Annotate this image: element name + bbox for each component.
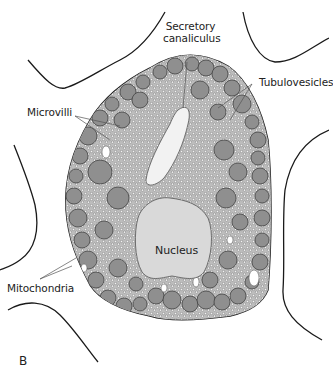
nucleus xyxy=(135,198,211,279)
label-microvilli: Microvilli xyxy=(27,106,72,118)
label-tubulovesicles: Tubulovesicles xyxy=(259,76,333,88)
label-secretory-canaliculus: Secretory canaliculus xyxy=(163,20,218,44)
label-nucleus: Nucleus xyxy=(155,245,198,257)
label-mitochondria: Mitochondria xyxy=(7,282,74,294)
cell-body xyxy=(60,50,275,325)
panel-label: B xyxy=(19,355,27,367)
